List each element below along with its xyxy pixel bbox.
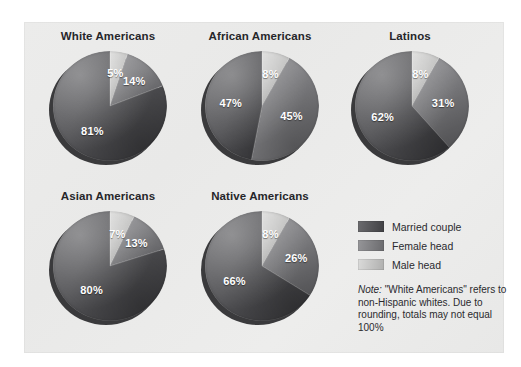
slice-label-female_head: 26% bbox=[285, 252, 308, 264]
chart-legend: Married coupleFemale headMale head bbox=[358, 219, 508, 276]
legend-label: Male head bbox=[392, 259, 441, 271]
pie-chart-native-americans: Native Americans8%26%66% bbox=[186, 190, 334, 340]
legend-item-female-head: Female head bbox=[358, 238, 508, 253]
slice-label-female_head: 13% bbox=[125, 237, 148, 249]
chart-note: Note: "White Americans" refers to non-Hi… bbox=[358, 284, 510, 334]
slice-label-married_couple: 47% bbox=[219, 97, 242, 109]
pie-title: Latinos bbox=[336, 30, 484, 42]
pie-graphic: 8%45%47% bbox=[201, 51, 319, 169]
slice-label-male_head: 5% bbox=[107, 67, 123, 79]
slice-label-married_couple: 80% bbox=[80, 284, 103, 296]
pie-graphic: 7%13%80% bbox=[49, 211, 167, 329]
slice-label-married_couple: 81% bbox=[81, 125, 104, 137]
pie-graphic: 8%26%66% bbox=[201, 211, 319, 329]
pie-chart-asian-americans: Asian Americans7%13%80% bbox=[34, 190, 182, 340]
slice-label-female_head: 31% bbox=[432, 97, 455, 109]
legend-item-male-head: Male head bbox=[358, 257, 508, 272]
pie-title: Native Americans bbox=[186, 190, 334, 202]
pie-graphic: 5%14%81% bbox=[49, 51, 167, 169]
pie-title: African Americans bbox=[186, 30, 334, 42]
pie-chart-white-americans: White Americans5%14%81% bbox=[34, 30, 182, 180]
pie-title: Asian Americans bbox=[34, 190, 182, 202]
slice-label-married_couple: 62% bbox=[371, 111, 394, 123]
legend-label: Married couple bbox=[392, 221, 461, 233]
pie-title: White Americans bbox=[34, 30, 182, 42]
slice-label-female_head: 14% bbox=[123, 75, 146, 87]
slice-label-married_couple: 66% bbox=[223, 275, 246, 287]
pie-chart-african-americans: African Americans8%45%47% bbox=[186, 30, 334, 180]
legend-item-married-couple: Married couple bbox=[358, 219, 508, 234]
pie-chart-latinos: Latinos8%31%62% bbox=[336, 30, 484, 180]
slice-label-male_head: 8% bbox=[412, 68, 428, 80]
legend-label: Female head bbox=[392, 240, 453, 252]
slice-label-male_head: 8% bbox=[262, 228, 278, 240]
figure-panel: White Americans5%14%81%African Americans… bbox=[24, 22, 504, 353]
legend-swatch-married-couple bbox=[358, 221, 384, 232]
note-label: Note: bbox=[358, 284, 382, 295]
slice-label-male_head: 8% bbox=[262, 68, 278, 80]
legend-swatch-male-head bbox=[358, 259, 384, 270]
legend-swatch-female-head bbox=[358, 240, 384, 251]
slice-label-female_head: 45% bbox=[280, 110, 303, 122]
slice-label-male_head: 7% bbox=[109, 228, 125, 240]
pie-graphic: 8%31%62% bbox=[351, 51, 469, 169]
